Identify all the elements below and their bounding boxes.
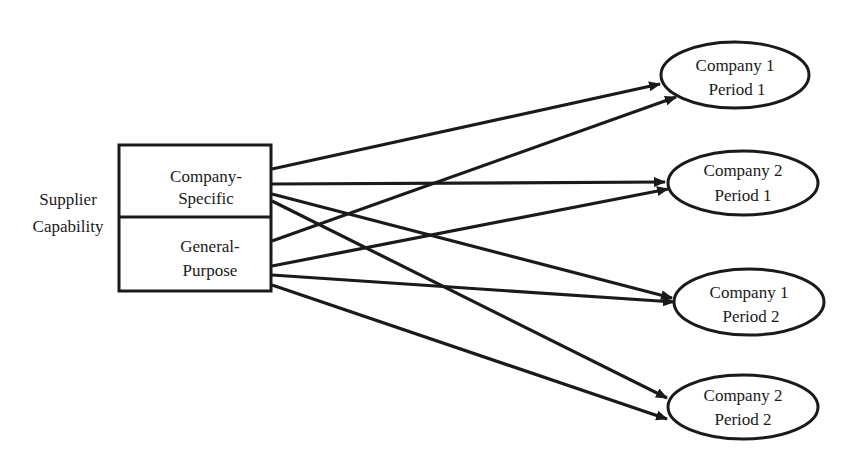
edge-general-purpose-to-c2p2	[272, 285, 667, 419]
svg-text:Period 1: Period 1	[708, 80, 765, 99]
supplier-capability-label: Supplier Capability	[33, 190, 104, 236]
capability-box: Company- Specific General- Purpose	[119, 145, 271, 291]
svg-text:Purpose: Purpose	[183, 261, 238, 280]
svg-text:Period 1: Period 1	[714, 186, 771, 205]
svg-text:Company 2: Company 2	[704, 161, 783, 180]
svg-text:Company-: Company-	[170, 167, 242, 186]
svg-text:Supplier: Supplier	[39, 190, 97, 209]
edge-company-specific-to-c1p2	[272, 194, 672, 298]
svg-text:Company 1: Company 1	[710, 283, 789, 302]
svg-text:Period 2: Period 2	[722, 307, 779, 326]
target-company2-period2: Company 2 Period 2	[668, 375, 818, 439]
target-company1-period2: Company 1 Period 2	[674, 269, 824, 335]
edge-general-purpose-to-c1p1	[272, 97, 676, 241]
svg-text:Company 1: Company 1	[696, 56, 775, 75]
target-company2-period1: Company 2 Period 1	[668, 151, 818, 215]
capability-general-purpose: General- Purpose	[180, 237, 240, 280]
edge-company-specific-to-c1p1	[272, 84, 660, 169]
edge-company-specific-to-c2p2	[272, 201, 667, 398]
edge-general-purpose-to-c2p1	[272, 189, 668, 266]
svg-text:Specific: Specific	[178, 189, 234, 208]
svg-text:Capability: Capability	[33, 217, 104, 236]
supplier-capability-diagram: Supplier Capability Company- Specific Ge…	[0, 0, 848, 464]
capability-company-specific: Company- Specific	[170, 167, 242, 208]
target-company1-period1: Company 1 Period 1	[661, 42, 809, 108]
svg-text:Period 2: Period 2	[714, 410, 771, 429]
edge-general-purpose-to-c1p2	[272, 275, 674, 302]
edge-company-specific-to-c2p1	[272, 182, 665, 184]
edges	[272, 84, 676, 419]
svg-text:Company 2: Company 2	[704, 386, 783, 405]
svg-text:General-: General-	[180, 237, 240, 256]
